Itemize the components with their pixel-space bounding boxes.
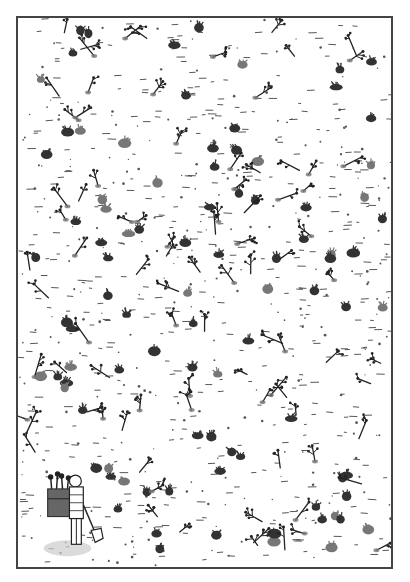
basket xyxy=(48,489,72,517)
seedling xyxy=(149,478,166,494)
ground-dot xyxy=(29,114,30,115)
seedling xyxy=(326,348,343,362)
ground-dot xyxy=(292,355,294,357)
ground-dot xyxy=(92,539,93,540)
ground-dot xyxy=(79,352,81,354)
grass-clump xyxy=(114,503,123,512)
ground-dot xyxy=(126,171,128,173)
ground-dot xyxy=(172,429,174,431)
ground-dot xyxy=(302,451,304,453)
ground-dot xyxy=(200,221,202,223)
ground-dot xyxy=(82,318,85,321)
ground-dot xyxy=(173,301,175,303)
ground-dot xyxy=(22,342,24,344)
ground-dot xyxy=(41,165,42,166)
grass-clump xyxy=(213,367,223,378)
seedling xyxy=(234,368,247,374)
seedling xyxy=(234,235,258,246)
ground-dot xyxy=(211,550,212,551)
ground-dot xyxy=(43,459,45,461)
ground-dot xyxy=(355,421,358,424)
seedling xyxy=(72,105,92,120)
ground-dot xyxy=(366,283,368,285)
shovel-handle xyxy=(83,505,95,533)
grass-clump xyxy=(30,252,40,262)
ground-dot xyxy=(312,471,314,473)
grass-clump xyxy=(103,252,113,261)
seedling xyxy=(277,159,300,170)
ground-dot xyxy=(156,28,158,30)
grass-clump xyxy=(326,541,338,553)
ground-dot xyxy=(338,109,341,112)
ground-dot xyxy=(78,238,80,240)
ground-dot xyxy=(299,308,302,311)
seedling xyxy=(290,523,308,535)
ground-dot xyxy=(109,157,111,159)
ground-dot xyxy=(111,115,112,116)
ground-dot xyxy=(40,515,41,516)
ground-dot xyxy=(319,46,322,49)
ground-dot xyxy=(256,389,257,390)
ground-dot xyxy=(121,442,123,444)
ground-dot xyxy=(90,510,92,512)
ground-dot xyxy=(361,148,364,151)
ground-dot xyxy=(378,343,381,346)
seedling xyxy=(179,387,195,412)
ground-dot xyxy=(22,139,24,141)
grass-clump xyxy=(75,26,85,36)
ground-dot xyxy=(101,27,103,29)
ground-dot xyxy=(77,442,80,445)
ground-dot xyxy=(44,198,46,200)
seedling xyxy=(231,176,249,192)
ground-dot xyxy=(329,502,331,504)
ground-dot xyxy=(57,118,59,120)
grass-clump xyxy=(90,463,102,473)
grass-clump xyxy=(95,238,107,246)
ground-dot xyxy=(369,364,371,366)
ground-dot xyxy=(217,457,219,459)
ground-dot xyxy=(366,270,369,273)
seedling xyxy=(85,75,99,94)
ground-dot xyxy=(116,561,119,564)
grass-clump xyxy=(148,344,161,356)
ground-dot xyxy=(284,451,286,453)
ground-dot xyxy=(177,256,178,257)
ground-dot xyxy=(216,277,218,279)
grass-clump xyxy=(262,283,273,294)
grass-clump xyxy=(192,430,204,439)
ground-dot xyxy=(58,114,60,116)
ground-dot xyxy=(317,499,319,501)
ground-dot xyxy=(376,298,378,300)
ground-dot xyxy=(304,144,306,146)
seedling xyxy=(24,251,31,270)
ground-dot xyxy=(377,68,378,69)
ground-dot xyxy=(277,120,279,122)
ground-dot xyxy=(337,164,338,165)
ground-dot xyxy=(167,119,169,121)
ground-dot xyxy=(319,141,321,143)
grass-clump xyxy=(366,55,377,65)
ground-dot xyxy=(212,117,214,119)
ground-dot xyxy=(65,411,68,414)
ground-dot xyxy=(263,19,265,21)
ground-dot xyxy=(386,253,388,255)
ground-dot xyxy=(286,121,288,123)
seedling xyxy=(156,280,179,292)
grass-clump xyxy=(300,202,311,212)
grass-clump xyxy=(210,159,220,170)
ground-dot xyxy=(123,244,124,245)
ground-dot xyxy=(136,367,138,369)
ground-dot xyxy=(224,127,226,129)
grass-clump xyxy=(330,81,343,90)
ground-dot xyxy=(155,564,157,566)
seedling xyxy=(117,215,135,224)
ground-dot xyxy=(51,316,52,317)
ground-dot xyxy=(213,340,215,342)
seedling xyxy=(355,373,370,384)
ground-dot xyxy=(195,163,198,166)
seedling xyxy=(27,279,48,297)
grass-clump xyxy=(362,523,374,534)
grass-clump xyxy=(317,512,327,523)
ground-dot xyxy=(146,520,148,522)
ground-dot xyxy=(241,541,243,543)
